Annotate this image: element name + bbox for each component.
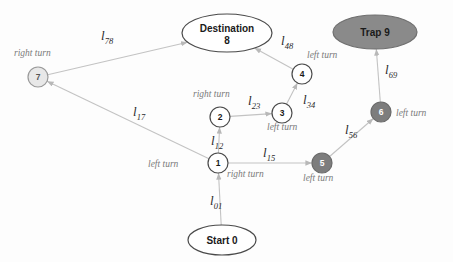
node-label-start0: Start 0	[206, 235, 238, 246]
edge-label-subscript-e48: 48	[285, 41, 294, 51]
edge-label-e34: l34	[303, 92, 316, 110]
edge-e34	[287, 83, 298, 104]
node-label-n6: 6	[379, 107, 384, 117]
node-label-trap9: Trap 9	[360, 27, 390, 38]
edge-label-e12: l12	[211, 133, 224, 151]
node-label-n5: 5	[320, 158, 325, 168]
node-trap9[interactable]: Trap 9	[333, 15, 417, 49]
turn-label-t-right-1: right turn	[227, 169, 264, 179]
edge-e17	[47, 81, 209, 158]
node-n5[interactable]: 5	[312, 153, 332, 173]
edge-label-e17: l17	[133, 104, 146, 122]
edge-label-e01: l01	[210, 193, 222, 211]
nodes-layer: Start 0Destination8Trap 91234567	[28, 14, 417, 255]
turn-label-t-left-4: left turn	[307, 50, 338, 60]
edge-label-e15: l15	[263, 145, 275, 163]
edge-label-subscript-e23: 23	[252, 101, 261, 111]
node-label-n1: 1	[216, 158, 221, 168]
edge-e78	[48, 42, 188, 74]
edge-labels-layer: l01l12l23l34l48l15l56l69l17l78	[101, 28, 398, 211]
turn-label-t-left-3: left turn	[267, 122, 298, 132]
node-label-n7: 7	[36, 72, 41, 82]
edge-label-e78: l78	[101, 28, 114, 46]
turn-label-t-left-6: left turn	[396, 108, 427, 118]
node-label-n3: 3	[280, 108, 285, 118]
node-n6[interactable]: 6	[371, 102, 391, 122]
node-label-n4: 4	[300, 69, 305, 79]
edge-label-e48: l48	[281, 33, 294, 51]
node-start0[interactable]: Start 0	[188, 225, 256, 255]
graph-svg: Start 0Destination8Trap 91234567 l01l12l…	[0, 0, 453, 262]
node-n7[interactable]: 7	[28, 67, 48, 87]
edge-label-e56: l56	[345, 122, 358, 140]
diagram-canvas: Start 0Destination8Trap 91234567 l01l12l…	[0, 0, 453, 262]
edge-label-e69: l69	[385, 62, 398, 80]
turn-label-t-right-2: right turn	[193, 89, 230, 99]
edge-label-subscript-e12: 12	[215, 141, 224, 151]
node-label-destination8-line1: Destination	[200, 23, 254, 34]
edge-e48	[255, 48, 294, 69]
turn-label-t-left-5: left turn	[303, 173, 334, 183]
edge-label-subscript-e56: 56	[349, 130, 358, 140]
edge-label-subscript-e78: 78	[105, 36, 114, 46]
edge-label-e23: l23	[248, 93, 260, 111]
edge-e69	[376, 49, 380, 102]
node-n4[interactable]: 4	[292, 64, 312, 84]
node-destination8[interactable]: Destination8	[182, 14, 272, 52]
node-n1[interactable]: 1	[208, 153, 228, 173]
edge-label-subscript-e69: 69	[389, 70, 398, 80]
node-n3[interactable]: 3	[272, 103, 292, 123]
edge-e23	[230, 114, 272, 117]
edge-label-subscript-e01: 01	[214, 201, 223, 211]
edge-label-subscript-e17: 17	[137, 112, 146, 122]
edge-label-subscript-e34: 34	[306, 100, 316, 110]
edge-e01	[219, 173, 222, 225]
node-n2[interactable]: 2	[210, 107, 230, 127]
node-label-n2: 2	[218, 112, 223, 122]
turn-label-t-right-7: right turn	[14, 48, 51, 58]
edge-label-subscript-e15: 15	[267, 153, 276, 163]
turn-label-t-left-1: left turn	[148, 159, 179, 169]
node-label-destination8-line2: 8	[224, 35, 230, 46]
